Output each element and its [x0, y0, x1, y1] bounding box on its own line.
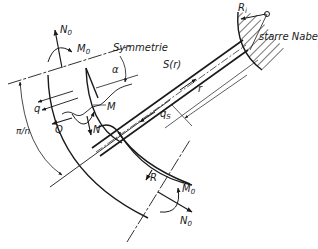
label-M0-bottom: M0 [182, 183, 196, 196]
label-M0-top: M0 [77, 43, 91, 56]
label-N0-bottom: N0 [180, 215, 192, 228]
label-M: M [107, 101, 116, 112]
label-r: r [198, 83, 203, 94]
r-reference-line [165, 60, 258, 128]
label-S-r: S(r) [163, 59, 181, 70]
label-starre-nabe: starre Nabe [259, 31, 318, 42]
q-load-arrow-1 [38, 91, 73, 102]
label-N: N [93, 124, 101, 135]
label-pi-over-n: π/n [16, 126, 30, 136]
label-symmetrie: Symmetrie [113, 42, 168, 53]
rim-sector [48, 68, 192, 218]
N0-bottom-arrow [158, 192, 192, 212]
label-alpha: α [112, 64, 119, 75]
M-moment-arc [72, 112, 94, 124]
spoke-mechanics-diagram: N0 M0 Symmetrie α q Q M N π/n S(r) qS r … [0, 0, 318, 249]
spoke-upper-edge [92, 40, 243, 148]
q-load-arrow-2 [42, 98, 78, 110]
alpha-ref-line [96, 75, 138, 88]
label-N0-top: N0 [60, 24, 72, 37]
rim-mid-arc-upper [86, 68, 122, 143]
label-R: R [150, 172, 157, 183]
label-Q: Q [55, 124, 63, 135]
M0-bottom-moment-arc [160, 188, 179, 212]
alpha-angle-arc [120, 56, 126, 82]
label-q: q [34, 103, 40, 114]
r-dimension-arrow [185, 75, 247, 118]
label-qs: qS [160, 108, 171, 121]
diagram-canvas: N0 M0 Symmetrie α q Q M N π/n S(r) qS r … [0, 0, 318, 249]
r-dimension [165, 60, 258, 128]
